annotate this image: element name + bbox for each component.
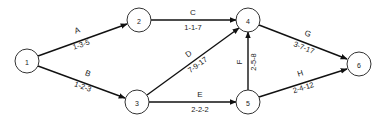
edge-a-name: A bbox=[73, 25, 82, 35]
edge-b-estimate: 1-2-3 bbox=[73, 79, 93, 93]
edge-a-estimate: 1-3-5 bbox=[71, 38, 90, 52]
node-5-label: 5 bbox=[246, 100, 250, 107]
node-2: 2 bbox=[127, 8, 151, 32]
edge-d-name: D bbox=[184, 49, 194, 60]
network-diagram: A 1-3-5 B 1-2-3 C 1-1-7 D 7-9-17 bbox=[0, 0, 386, 120]
node-6: 6 bbox=[347, 52, 371, 76]
edge-g: G 3-7-17 bbox=[259, 25, 347, 59]
node-1-label: 1 bbox=[25, 59, 29, 66]
edge-c: C 1-1-7 bbox=[151, 8, 236, 32]
edge-b-name: B bbox=[84, 69, 92, 79]
edge-c-estimate: 1-1-7 bbox=[184, 23, 202, 32]
node-5: 5 bbox=[236, 90, 260, 114]
node-4-label: 4 bbox=[246, 18, 250, 25]
edge-h-name: H bbox=[296, 68, 304, 78]
edge-e-estimate: 2-2-2 bbox=[191, 105, 209, 114]
node-1: 1 bbox=[15, 49, 39, 73]
node-3: 3 bbox=[125, 90, 149, 114]
edges: A 1-3-5 B 1-2-3 C 1-1-7 D 7-9-17 bbox=[38, 8, 347, 114]
edge-a: A 1-3-5 bbox=[38, 24, 127, 56]
edge-g-estimate: 3-7-17 bbox=[292, 40, 315, 56]
edge-f: F 2-5-8 bbox=[235, 32, 258, 90]
node-4: 4 bbox=[236, 8, 260, 32]
node-6-label: 6 bbox=[357, 62, 361, 69]
edge-h-estimate: 2-4-12 bbox=[292, 80, 315, 95]
edge-c-name: C bbox=[190, 8, 196, 17]
edge-e: E 2-2-2 bbox=[149, 90, 236, 114]
edge-f-estimate: 2-5-8 bbox=[249, 53, 258, 71]
edge-b: B 1-2-3 bbox=[38, 66, 125, 98]
diagram-canvas: A 1-3-5 B 1-2-3 C 1-1-7 D 7-9-17 bbox=[0, 0, 386, 120]
node-3-label: 3 bbox=[135, 100, 139, 107]
edge-d: D 7-9-17 bbox=[147, 28, 239, 95]
edge-g-name: G bbox=[303, 28, 312, 39]
edge-f-name: F bbox=[235, 59, 244, 64]
edge-e-name: E bbox=[197, 90, 202, 99]
node-2-label: 2 bbox=[137, 18, 141, 25]
edge-h: H 2-4-12 bbox=[259, 68, 347, 97]
